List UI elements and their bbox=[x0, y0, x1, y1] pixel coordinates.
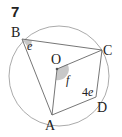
center-point bbox=[56, 68, 59, 71]
radius-oa bbox=[52, 69, 57, 115]
circle-theorem-diagram: 7 B C D A O e f 4e bbox=[0, 0, 122, 137]
question-number: 7 bbox=[11, 3, 19, 20]
angle-label-e: e bbox=[27, 39, 33, 53]
chord-cd bbox=[96, 50, 102, 97]
angle-label-f: f bbox=[66, 73, 71, 87]
label-a: A bbox=[45, 118, 56, 133]
chord-bc bbox=[22, 39, 102, 50]
radius-oc bbox=[57, 50, 102, 69]
label-b: B bbox=[11, 25, 20, 40]
label-c: C bbox=[103, 43, 112, 58]
chord-da bbox=[52, 97, 96, 115]
label-d: D bbox=[97, 100, 107, 115]
angle-label-4e: 4e bbox=[82, 85, 94, 99]
label-o: O bbox=[51, 52, 61, 67]
